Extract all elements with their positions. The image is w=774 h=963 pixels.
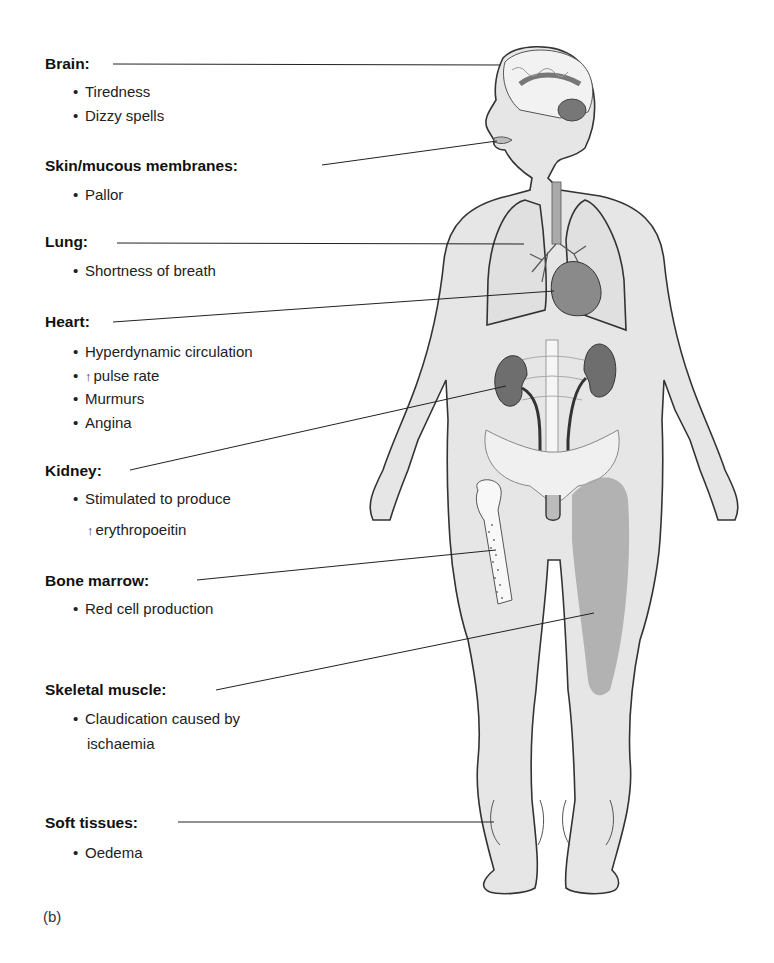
anatomy-diagram: Brain: •Tiredness •Dizzy spells Skin/muc… xyxy=(0,0,774,963)
label-kidney-heading: Kidney: xyxy=(45,462,102,480)
label-heart-item: •Angina xyxy=(73,414,132,432)
label-heart-item: •Murmurs xyxy=(73,390,144,408)
figure-caption: (b) xyxy=(43,908,61,925)
label-skeletal-muscle-continuation: ischaemia xyxy=(87,735,155,753)
label-skin-heading: Skin/mucous membranes: xyxy=(45,157,238,175)
up-arrow-icon: ↑ xyxy=(87,523,94,538)
label-skin-item: •Pallor xyxy=(73,186,123,204)
trachea xyxy=(552,182,561,244)
label-bone-marrow-item: •Red cell production xyxy=(73,600,213,618)
label-skeletal-muscle-item: •Claudication caused by xyxy=(73,710,240,728)
label-soft-tissues-item: •Oedema xyxy=(73,844,143,862)
label-skeletal-muscle-heading: Skeletal muscle: xyxy=(45,681,166,699)
label-brain-item: •Tiredness xyxy=(73,83,150,101)
spine xyxy=(546,340,558,460)
label-brain-heading: Brain: xyxy=(45,55,90,73)
up-arrow-icon: ↑ xyxy=(85,369,92,384)
leader-line-bone-marrow xyxy=(197,550,496,580)
label-soft-tissues-heading: Soft tissues: xyxy=(45,814,138,832)
label-heart-heading: Heart: xyxy=(45,313,90,331)
label-lung-item: •Shortness of breath xyxy=(73,262,216,280)
label-kidney-item: •Stimulated to produce xyxy=(73,490,231,508)
leader-line-brain xyxy=(113,64,500,65)
label-heart-item: •↑pulse rate xyxy=(73,367,159,386)
label-bone-marrow-heading: Bone marrow: xyxy=(45,572,149,590)
label-brain-item: •Dizzy spells xyxy=(73,107,164,125)
label-kidney-continuation: ↑erythropoeitin xyxy=(87,521,186,540)
label-heart-item: •Hyperdynamic circulation xyxy=(73,343,253,361)
label-lung-heading: Lung: xyxy=(45,233,88,251)
leader-line-skin xyxy=(322,141,497,165)
